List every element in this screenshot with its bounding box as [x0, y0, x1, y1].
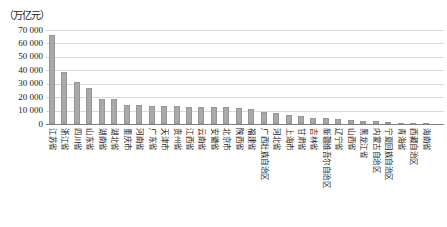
bar-江苏省 [49, 35, 55, 124]
x-axis-label: 黑龙江省 [360, 128, 368, 158]
bar-湖北省 [111, 99, 117, 124]
gridline [46, 111, 444, 112]
x-axis-label: 湖北省 [111, 128, 119, 151]
bar-广西壮族自治区 [261, 112, 267, 124]
gridline [46, 30, 444, 31]
bar-浙江省 [61, 72, 67, 124]
x-axis-label: 安徽省 [211, 128, 219, 151]
bar-北京市 [223, 107, 229, 124]
gridline [46, 84, 444, 85]
x-axis-label: 四川省 [74, 128, 82, 151]
x-axis-label: 内蒙古自治区 [373, 128, 381, 173]
bar-湖南省 [99, 99, 105, 124]
bar-安徽省 [211, 107, 217, 124]
gridline [46, 70, 444, 71]
bar-江西省 [186, 107, 192, 124]
bar-上海市 [286, 115, 292, 124]
bar-chart: （万亿元） 70 00060 00050 00040 00030 00020 0… [0, 0, 447, 227]
bar-山东省 [86, 88, 92, 124]
x-axis-label: 广东省 [149, 128, 157, 151]
y-axis-tick-label: 40 000 [3, 65, 43, 76]
bar-四川省 [74, 82, 80, 124]
bar-河北省 [273, 113, 279, 124]
x-axis-label: 重庆市 [124, 128, 132, 151]
x-axis-label: 福建省 [248, 128, 256, 151]
bar-福建省 [248, 109, 254, 124]
y-axis-tick-label: 0 [3, 119, 43, 130]
bar-广东省 [149, 106, 155, 124]
x-axis-label: 宁夏回族自治区 [385, 128, 393, 181]
bar-云南省 [198, 107, 204, 124]
x-axis-label: 海南省 [423, 128, 431, 151]
y-axis-tick-label: 10 000 [3, 105, 43, 116]
x-axis-label: 天津市 [161, 128, 169, 151]
x-axis-label: 河南省 [136, 128, 144, 151]
y-axis-unit-label: （万亿元） [4, 7, 49, 22]
x-axis-label: 河北省 [273, 128, 281, 151]
gridline [46, 43, 444, 44]
x-axis-label: 山东省 [86, 128, 94, 151]
x-axis-label: 辽宁省 [335, 128, 343, 151]
x-axis-label: 贵州省 [174, 128, 182, 151]
y-axis-tick-label: 70 000 [3, 25, 43, 36]
x-axis-label: 山西省 [348, 128, 356, 151]
bar-陕西省 [236, 108, 242, 124]
x-axis-label: 北京市 [223, 128, 231, 151]
x-axis-label: 江苏省 [49, 128, 57, 151]
x-axis-label: 新疆维吾尔自治区 [323, 128, 331, 188]
x-axis-label: 陕西省 [236, 128, 244, 151]
x-axis-label: 吉林省 [310, 128, 318, 151]
bar-甘肃省 [298, 116, 304, 124]
x-axis-label: 甘肃省 [298, 128, 306, 151]
y-axis-tick-label: 50 000 [3, 51, 43, 62]
x-axis-label: 上海市 [286, 128, 294, 151]
bar-河南省 [136, 105, 142, 124]
y-axis-tick-label: 60 000 [3, 38, 43, 49]
x-axis-label: 西藏自治区 [410, 128, 418, 166]
gridline [46, 57, 444, 58]
x-axis-line [46, 124, 444, 125]
y-axis-tick-label: 20 000 [3, 92, 43, 103]
bar-贵州省 [174, 106, 180, 124]
bar-天津市 [161, 106, 167, 124]
x-axis-label: 青海省 [398, 128, 406, 151]
x-axis-label: 广西壮族自治区 [261, 128, 269, 181]
x-axis-label: 浙江省 [61, 128, 69, 151]
x-axis-label: 云南省 [198, 128, 206, 151]
bar-重庆市 [124, 105, 130, 124]
y-axis-tick-label: 30 000 [3, 78, 43, 89]
x-axis-label: 湖南省 [99, 128, 107, 151]
x-axis-label: 江西省 [186, 128, 194, 151]
gridline [46, 97, 444, 98]
